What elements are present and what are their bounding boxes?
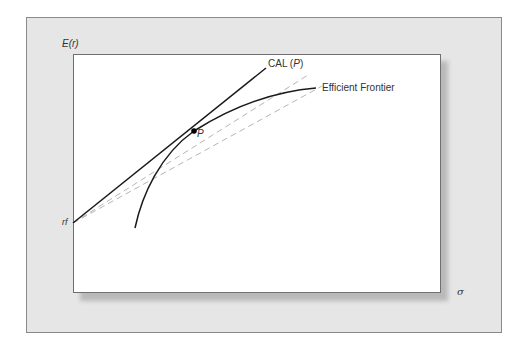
point-p-label: P bbox=[197, 128, 204, 139]
cal-label: CAL (P) bbox=[268, 58, 303, 69]
efficient-frontier-curve bbox=[135, 88, 316, 228]
cal-label-close: ) bbox=[300, 58, 303, 69]
tangency-point-p bbox=[191, 128, 197, 134]
efficient-frontier-label: Efficient Frontier bbox=[322, 82, 395, 93]
risk-free-label: rf bbox=[62, 217, 68, 227]
inferior-cal-line-1 bbox=[73, 75, 308, 223]
cal-label-text: CAL ( bbox=[268, 58, 293, 69]
cal-p-line bbox=[73, 68, 266, 223]
inferior-cal-line-2 bbox=[73, 86, 322, 223]
y-axis-label: E(r) bbox=[62, 38, 79, 49]
cal-label-p: P bbox=[293, 58, 300, 69]
diagram-svg bbox=[0, 0, 528, 354]
x-axis-label: σ bbox=[457, 286, 464, 297]
